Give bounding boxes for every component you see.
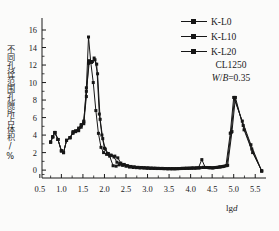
data-point-marker [96,72,99,75]
data-point-marker [181,167,184,170]
data-point-marker [93,58,96,61]
data-point-marker [199,166,202,169]
data-point-marker [92,81,95,84]
data-point-marker [69,136,72,139]
x-tick-label: 5.0 [228,185,238,194]
data-point-marker [53,131,56,134]
data-point-marker [88,59,91,62]
data-point-marker [77,127,80,130]
legend-item-0[interactable]: K-L0 [181,14,277,29]
legend-item-1[interactable]: K-L10 [181,29,277,44]
data-point-marker [157,167,160,170]
data-point-marker [188,167,191,170]
y-tick-label: 10 [29,79,37,88]
y-tick-label: 2 [33,149,37,158]
data-point-marker [223,165,226,168]
data-point-marker [99,118,102,121]
x-tick-label: 1.5 [78,185,88,194]
data-point-marker [113,155,116,158]
data-point-marker [234,96,237,99]
data-point-marker [115,165,118,168]
data-point-marker [205,166,208,169]
annotation-water-binder-ratio: W/B=0.35 [185,73,277,83]
data-point-marker [126,164,129,167]
x-axis-label: lgd [226,203,238,213]
x-tick-label: 3.0 [142,185,152,194]
data-point-marker [85,90,88,93]
data-point-marker [87,36,90,39]
data-point-marker [133,165,136,168]
data-point-marker [137,166,140,169]
x-tick-label: 0.5 [35,185,45,194]
data-point-marker [168,167,171,170]
data-point-marker [209,166,212,169]
legend-marker-icon [181,47,207,57]
y-tick-label: 0 [33,166,37,175]
data-point-marker [94,109,97,112]
data-point-marker [243,128,246,131]
x-tick-label: 4.0 [185,185,195,194]
data-point-marker [150,167,153,170]
data-point-marker [219,165,222,168]
data-point-marker [115,161,118,164]
data-point-marker [116,156,119,159]
data-point-marker [77,129,80,132]
legend-label-0: K-L0 [211,17,232,27]
data-point-marker [107,152,110,155]
x-tick-label: 2.0 [99,185,109,194]
annotation-sample: CL1250 [185,60,277,70]
data-point-marker [147,166,150,169]
data-point-marker [178,167,181,170]
legend-marker-icon [181,32,207,42]
data-point-marker [74,129,77,132]
data-point-marker [174,167,177,170]
data-point-marker [226,164,229,167]
y-tick-label: 16 [29,26,37,35]
data-point-marker [112,164,115,167]
data-point-marker [101,137,104,140]
legend-label-2: K-L20 [211,47,236,57]
data-point-marker [195,166,198,169]
legend-label-1: K-L10 [211,32,236,42]
y-tick-label: 8 [33,96,37,105]
data-point-marker [171,167,174,170]
data-point-marker [216,166,219,169]
x-tick-label: 1.0 [56,185,66,194]
data-point-marker [200,158,203,161]
x-tick-label: 3.5 [164,185,174,194]
chart-legend: K-L0 K-L10 K-L20 [181,14,277,59]
x-tick-label: 2.5 [121,185,131,194]
figure-container: 不同孔径范围孔隙所占体积/% 02468101214160.51.01.52.0… [0,0,279,231]
data-point-marker [104,148,107,151]
data-point-marker [56,138,59,141]
x-axis-label-main: lg [226,203,233,213]
data-point-marker [154,167,157,170]
y-tick-label: 12 [29,61,37,70]
data-point-marker [102,151,105,154]
y-tick-label: 4 [33,131,38,140]
data-point-marker [110,154,113,157]
data-point-marker [65,139,68,142]
data-point-marker [91,60,94,63]
data-point-marker [161,167,164,170]
x-tick-label: 5.5 [250,185,260,194]
y-tick-label: 14 [29,44,38,53]
data-point-marker [51,135,54,138]
data-point-marker [260,169,263,172]
data-point-marker [164,167,167,170]
data-point-marker [49,141,52,144]
data-point-marker [119,162,122,165]
annotation-ratio-value: =0.35 [228,73,250,83]
data-point-marker [185,167,188,170]
data-point-marker [140,166,143,169]
y-tick-label: 6 [33,114,37,123]
x-axis-label-italic: d [233,203,238,213]
data-point-marker [192,167,195,170]
data-point-marker [72,130,75,133]
data-point-marker [130,165,133,168]
data-point-marker [202,166,205,169]
legend-item-2[interactable]: K-L20 [181,44,277,59]
data-point-marker [62,151,65,154]
x-tick-label: 4.5 [207,185,217,194]
data-point-marker [251,151,254,154]
